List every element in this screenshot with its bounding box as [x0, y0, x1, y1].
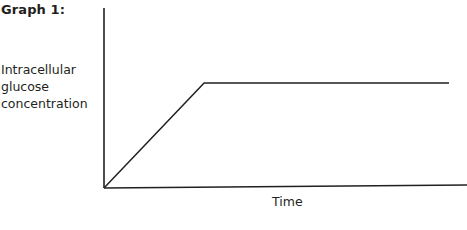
x-axis-label: Time [272, 194, 303, 209]
plot-area [0, 0, 467, 230]
x-axis [104, 185, 467, 188]
data-line [104, 83, 449, 188]
